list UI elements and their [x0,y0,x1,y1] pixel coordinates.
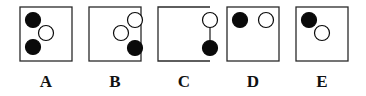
black-circle [233,13,248,28]
white-circle [259,13,274,28]
black-circle [26,13,41,28]
option-label: C [178,72,190,91]
white-circle [128,13,143,28]
white-circle [114,26,129,41]
option-label: B [109,72,120,91]
white-circle [315,26,330,41]
option-d[interactable]: D [227,7,279,91]
option-label: A [40,72,53,91]
option-a[interactable]: A [20,7,72,91]
white-circle [39,26,54,41]
option-label: D [247,72,259,91]
option-frame [158,7,210,61]
black-circle [302,13,317,28]
black-circle [128,41,143,56]
black-circle [203,41,218,56]
option-label: E [316,72,327,91]
answer-options-diagram: ABCDE [0,0,366,96]
option-c[interactable]: C [158,7,218,91]
black-circle [26,40,41,55]
option-b[interactable]: B [89,7,143,91]
white-circle [203,13,218,28]
option-e[interactable]: E [296,7,348,91]
